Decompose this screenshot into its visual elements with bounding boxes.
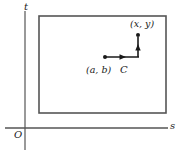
math-figure: t s O (a, b) C (x, y)	[0, 0, 180, 152]
end-point-dot	[136, 33, 140, 37]
start-point-dot	[103, 55, 107, 59]
end-point-label: (x, y)	[130, 19, 154, 29]
origin-label: O	[14, 130, 22, 140]
path-label: C	[120, 65, 128, 75]
start-point-label: (a, b)	[86, 65, 111, 75]
t-axis-label: t	[24, 2, 28, 12]
path-vertical-arrowhead	[135, 44, 140, 51]
s-axis-label: s	[170, 121, 175, 131]
path-horizontal-arrowhead	[120, 54, 127, 59]
